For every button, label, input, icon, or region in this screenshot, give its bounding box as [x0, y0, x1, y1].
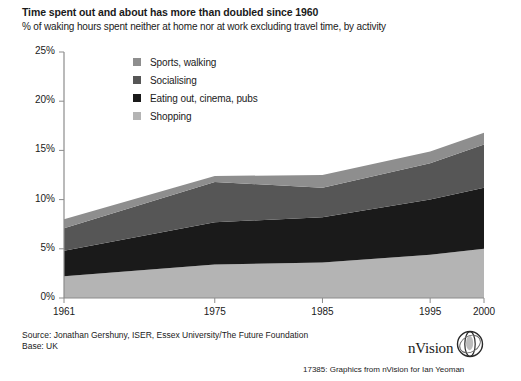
y-axis-tick-label: 5%	[19, 242, 55, 253]
nvision-wordmark: nVision	[408, 340, 453, 357]
area-series-group	[64, 133, 484, 298]
nvision-sphere-icon	[455, 329, 485, 363]
stacked-area-chart	[0, 0, 521, 381]
legend-item-label: Sports, walking	[150, 57, 216, 68]
x-axis-tick-label: 2000	[473, 306, 495, 317]
y-axis-tick-label: 0%	[19, 291, 55, 302]
legend-swatch-icon	[133, 112, 141, 120]
y-axis-tick-label: 20%	[19, 94, 55, 105]
legend-swatch-icon	[133, 94, 141, 102]
legend-item: Shopping	[133, 107, 258, 125]
legend-item-label: Eating out, cinema, pubs	[150, 93, 258, 104]
legend-item: Socialising	[133, 71, 258, 89]
y-axis-tick-label: 25%	[19, 45, 55, 56]
legend-item: Sports, walking	[133, 53, 258, 71]
y-axis-tick-label: 10%	[19, 193, 55, 204]
chart-page: Time spent out and about has more than d…	[0, 0, 521, 381]
legend-swatch-icon	[133, 58, 141, 66]
chart-plot-area: 0%5%10%15%20%25% 19611975198519952000	[0, 0, 521, 381]
base-note: Base: UK	[22, 341, 58, 351]
legend-item-label: Shopping	[150, 111, 191, 122]
credit-note: 17385: Graphics from nVision for Ian Yeo…	[303, 365, 464, 374]
source-note: Source: Jonathan Gershuny, ISER, Essex U…	[22, 330, 308, 340]
x-axis-tick-label: 1985	[311, 306, 333, 317]
chart-legend: Sports, walkingSocialisingEating out, ci…	[133, 53, 258, 125]
nvision-logo: nVision	[408, 333, 485, 363]
x-axis-tick-label: 1961	[53, 306, 75, 317]
y-axis-tick-label: 15%	[19, 143, 55, 154]
legend-item: Eating out, cinema, pubs	[133, 89, 258, 107]
x-axis-tick-label: 1995	[419, 306, 441, 317]
legend-swatch-icon	[133, 76, 141, 84]
legend-item-label: Socialising	[150, 75, 197, 86]
x-axis-tick-label: 1975	[204, 306, 226, 317]
